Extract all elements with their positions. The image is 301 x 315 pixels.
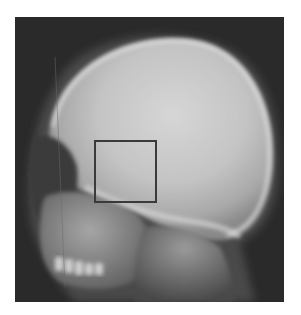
region-of-interest-box bbox=[94, 140, 157, 203]
xray-image bbox=[15, 17, 284, 302]
